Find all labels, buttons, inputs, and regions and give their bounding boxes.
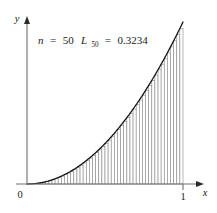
annotation-n-symbol: n: [38, 34, 44, 46]
riemann-rectangle: [77, 167, 80, 184]
annotation-L-equals: =: [105, 34, 111, 46]
riemann-rectangle: [167, 53, 170, 184]
riemann-lower-sum-figure: y x 0 1 n = 50 L 50 = 0.3234: [0, 0, 217, 213]
riemann-rectangle: [89, 158, 92, 184]
annotation-L-symbol: L: [80, 34, 87, 46]
riemann-rectangle: [161, 64, 164, 184]
riemann-rectangle: [180, 28, 183, 184]
riemann-rectangle: [71, 171, 74, 184]
riemann-rectangle: [133, 109, 136, 184]
y-axis-label: y: [14, 13, 20, 24]
riemann-rectangle: [149, 85, 152, 184]
annotation-L-value: 0.3234: [118, 34, 149, 46]
riemann-rectangle: [86, 161, 89, 184]
y-axis-arrowhead: [24, 16, 30, 24]
riemann-rectangle: [102, 147, 105, 184]
riemann-rectangle: [124, 122, 127, 184]
riemann-rectangle: [80, 165, 83, 184]
riemann-rectangle: [117, 130, 120, 185]
x-tick-label-one: 1: [180, 191, 185, 202]
x-axis-label: x: [202, 187, 208, 198]
riemann-rectangle: [99, 150, 102, 184]
annotation-L-subscript: 50: [91, 41, 99, 49]
riemann-rectangle: [58, 178, 61, 184]
riemann-rectangle: [152, 80, 155, 184]
figure-canvas: y x 0 1 n = 50 L 50 = 0.3234: [0, 0, 217, 213]
riemann-rectangle: [114, 133, 117, 184]
riemann-rectangle: [127, 118, 130, 184]
riemann-rectangle: [146, 90, 149, 184]
riemann-rectangle: [155, 75, 158, 184]
annotation-n-equals: =: [50, 34, 56, 46]
riemann-rectangle: [55, 179, 58, 184]
riemann-rectangle: [105, 144, 108, 185]
riemann-rectangle: [139, 100, 142, 184]
riemann-rectangle: [64, 175, 67, 184]
annotation-L-expression: L 50 = 0.3234: [80, 30, 148, 50]
riemann-rectangle: [171, 47, 174, 184]
riemann-rectangle: [108, 140, 111, 184]
origin-label: 0: [17, 189, 22, 200]
annotation-group: n = 50 L 50 = 0.3234: [38, 30, 148, 50]
riemann-rectangle: [61, 176, 64, 184]
annotation-n-value: 50: [63, 34, 75, 46]
riemann-rectangle: [142, 95, 145, 184]
riemann-rectangle: [68, 173, 71, 184]
riemann-rectangle: [121, 126, 124, 184]
riemann-rectangle: [164, 59, 167, 184]
riemann-rectangle: [74, 169, 77, 184]
riemann-rectangle: [130, 113, 133, 184]
riemann-rectangle: [174, 41, 177, 184]
riemann-rectangle: [96, 153, 99, 184]
riemann-rectangle: [177, 35, 180, 184]
riemann-rectangles-group: [36, 28, 183, 184]
riemann-rectangle: [158, 70, 161, 184]
riemann-rectangle: [111, 137, 114, 184]
riemann-rectangle: [83, 163, 86, 184]
riemann-rectangle: [52, 180, 55, 184]
riemann-rectangle: [93, 155, 96, 184]
riemann-rectangle: [136, 105, 139, 184]
annotation-n-expression: n = 50: [38, 30, 74, 47]
